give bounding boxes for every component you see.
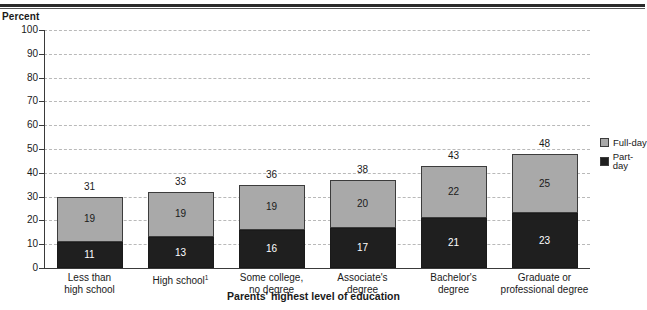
- bar-total-label: 31: [57, 182, 123, 192]
- bar-segment-value-full-day: 19: [266, 202, 277, 212]
- gridline: [44, 125, 590, 126]
- bar-stack[interactable]: 161936: [239, 185, 305, 268]
- legend-item[interactable]: Part-day: [600, 152, 647, 171]
- x-axis-title: Parents' highest level of education: [0, 290, 647, 302]
- legend-item-label: Part-day: [613, 152, 647, 171]
- y-axis-tick-label: 50: [14, 144, 38, 154]
- bar-segment-value-part-day: 16: [266, 244, 277, 254]
- bar-segment-value-full-day: 20: [357, 199, 368, 209]
- bar-segment-full-day[interactable]: 19: [239, 185, 305, 230]
- bar-stack[interactable]: 111931: [57, 197, 123, 268]
- y-axis-tick-label: 100: [14, 25, 38, 35]
- bar-segment-full-day[interactable]: 20: [330, 180, 396, 228]
- bar-total-label: 43: [421, 151, 487, 161]
- y-axis-tick-label: 40: [14, 168, 38, 178]
- bar-total-label: 48: [512, 139, 578, 149]
- y-axis-tick-mark: [39, 54, 45, 55]
- plot-area: 111931131933161936172038212243232548: [44, 30, 590, 268]
- gridline: [44, 197, 590, 198]
- y-axis-tick-mark: [39, 125, 45, 126]
- bar-segment-full-day[interactable]: 19: [57, 197, 123, 242]
- y-axis-tick-mark: [39, 268, 45, 269]
- bar-segment-value-part-day: 17: [357, 243, 368, 253]
- header-rule: [0, 4, 645, 7]
- y-axis-tick-mark: [39, 173, 45, 174]
- bar-segment-full-day[interactable]: 25: [512, 154, 578, 214]
- legend-item-label: Full-day: [613, 138, 647, 148]
- bar-segment-value-part-day: 21: [448, 238, 459, 248]
- bar-stack[interactable]: 172038: [330, 180, 396, 268]
- gridline: [44, 149, 590, 150]
- gridline: [44, 78, 590, 79]
- gridline: [44, 244, 590, 245]
- bar-segment-full-day[interactable]: 19: [148, 192, 214, 237]
- y-axis-tick-label: 80: [14, 73, 38, 83]
- bar-segment-value-full-day: 19: [84, 214, 95, 224]
- x-axis-title-text: Parents' highest level of education: [227, 290, 400, 302]
- bar-stack[interactable]: 232548: [512, 154, 578, 268]
- y-axis-tick-label: 20: [14, 215, 38, 225]
- bar-segment-value-part-day: 23: [539, 236, 550, 246]
- bar-segment-part-day[interactable]: 17: [330, 228, 396, 268]
- bar-segment-full-day[interactable]: 22: [421, 166, 487, 218]
- x-axis-category-label-line: Graduate or: [489, 272, 600, 284]
- legend-swatch-icon: [600, 138, 609, 147]
- bar-segment-part-day[interactable]: 13: [148, 237, 214, 268]
- bar-segment-value-part-day: 13: [175, 248, 186, 258]
- legend-item[interactable]: Full-day: [600, 138, 647, 148]
- legend-swatch-icon: [600, 157, 609, 166]
- bar-total-label: 38: [330, 165, 396, 175]
- y-axis-tick-label: 30: [14, 192, 38, 202]
- y-axis-tick-mark: [39, 197, 45, 198]
- y-axis-tick-mark: [39, 149, 45, 150]
- bar-segment-part-day[interactable]: 23: [512, 213, 578, 268]
- bar-segment-value-full-day: 19: [175, 209, 186, 219]
- y-axis-tick-label: 70: [14, 96, 38, 106]
- footnote-marker: 1: [205, 274, 209, 281]
- gridline: [44, 220, 590, 221]
- bar-segment-part-day[interactable]: 21: [421, 218, 487, 268]
- bar-total-label: 36: [239, 170, 305, 180]
- y-axis-tick-mark: [39, 30, 45, 31]
- bar-segment-value-part-day: 11: [84, 250, 94, 260]
- y-axis-tick-label: 90: [14, 49, 38, 59]
- gridline: [44, 54, 590, 55]
- y-axis-tick-label: 60: [14, 120, 38, 130]
- bar-segment-value-full-day: 22: [448, 187, 459, 197]
- gridline: [44, 101, 590, 102]
- bar-segment-part-day[interactable]: 11: [57, 242, 123, 268]
- y-axis-tick-label: 10: [14, 239, 38, 249]
- header-rule-thin: [0, 8, 645, 9]
- y-axis-tick-mark: [39, 244, 45, 245]
- bar-total-label: 33: [148, 177, 214, 187]
- gridline: [44, 173, 590, 174]
- bar-segment-part-day[interactable]: 16: [239, 230, 305, 268]
- y-axis-tick-mark: [39, 78, 45, 79]
- bar-segment-value-full-day: 25: [539, 179, 550, 189]
- y-axis-tick-labels: 0102030405060708090100: [10, 0, 38, 310]
- stacked-bar-chart: Percent 0102030405060708090100 111931131…: [0, 0, 647, 310]
- bar-stack[interactable]: 131933: [148, 192, 214, 268]
- x-axis-baseline: [44, 268, 590, 269]
- y-axis-tick-mark: [39, 220, 45, 221]
- y-axis-tick-mark: [39, 101, 45, 102]
- bar-stack[interactable]: 212243: [421, 166, 487, 268]
- chart-legend: Full-dayPart-day: [600, 138, 647, 175]
- gridline: [44, 30, 590, 31]
